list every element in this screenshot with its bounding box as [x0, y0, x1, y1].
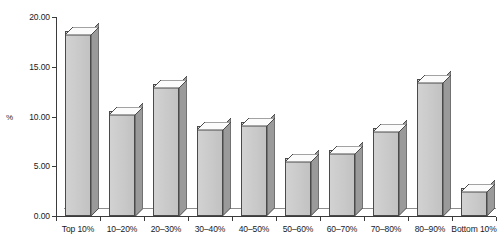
bar-60-70	[329, 142, 363, 216]
bar-front-face	[329, 150, 355, 216]
x-axis-tick-mark	[408, 217, 409, 221]
bar-front-face	[241, 122, 267, 216]
bar-top-face	[417, 71, 451, 81]
bar-bottom-10	[461, 180, 495, 216]
bar-side-face	[135, 103, 143, 216]
bar-top-face	[65, 23, 99, 33]
x-axis-tick-mark	[56, 217, 57, 221]
bar-side-face	[179, 76, 187, 216]
bar-side-face	[223, 118, 231, 216]
x-axis-tick-mark	[452, 217, 453, 221]
bar-chart: % 0.005.0010.0015.0020.00 Top 10%10–20%2…	[0, 0, 504, 247]
bar-50-60	[285, 150, 319, 216]
bar-front-face	[417, 79, 443, 216]
bar-top-face	[109, 103, 143, 113]
y-axis-tick-label: 5.00	[16, 161, 50, 171]
y-axis-tick-label: 10.00	[16, 112, 50, 122]
bar-20-30	[153, 76, 187, 216]
x-axis-tick-mark	[364, 217, 365, 221]
bar-front-face	[65, 31, 91, 216]
bar-80-90	[417, 71, 451, 216]
bar-side-face	[91, 23, 99, 216]
x-axis-tick-mark	[276, 217, 277, 221]
bar-front-face	[197, 126, 223, 216]
y-axis-tick-label: 20.00	[16, 12, 50, 22]
bar-top-10	[65, 23, 99, 216]
x-axis-tick-mark	[232, 217, 233, 221]
y-axis-line	[56, 17, 57, 217]
bar-side-face	[443, 71, 451, 216]
x-axis-tick-mark	[188, 217, 189, 221]
y-axis-title: %	[6, 113, 13, 122]
bar-top-face	[197, 118, 231, 128]
bar-40-50	[241, 114, 275, 216]
bar-front-face	[109, 111, 135, 216]
x-axis-tick-mark	[320, 217, 321, 221]
bar-top-face	[241, 114, 275, 124]
x-axis-tick-label: Bottom 10%	[434, 224, 504, 234]
y-axis-tick-label: 0.00	[16, 211, 50, 221]
bar-top-face	[329, 142, 363, 152]
x-axis-tick-mark	[144, 217, 145, 221]
bar-top-face	[285, 150, 319, 160]
bar-front-face	[153, 84, 179, 216]
x-axis-tick-mark	[496, 217, 497, 221]
bar-top-face	[153, 76, 187, 86]
y-axis-tick-label: 15.00	[16, 62, 50, 72]
bar-side-face	[399, 120, 407, 216]
bar-10-20	[109, 103, 143, 216]
x-axis-tick-mark	[100, 217, 101, 221]
bar-front-face	[285, 158, 311, 216]
bar-top-face	[461, 180, 495, 190]
bar-70-80	[373, 120, 407, 216]
bar-top-face	[373, 120, 407, 130]
bar-30-40	[197, 118, 231, 216]
bar-front-face	[373, 128, 399, 216]
bar-side-face	[267, 114, 275, 216]
